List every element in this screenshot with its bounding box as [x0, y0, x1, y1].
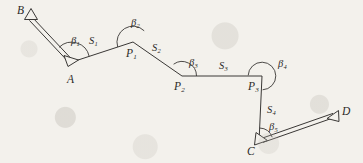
angle-arc-b2	[117, 26, 144, 47]
station-label-D: D	[342, 106, 350, 118]
angle-label-b3: β3	[189, 58, 197, 69]
station-marker-A	[64, 56, 79, 67]
angle-label-b2: β2	[131, 18, 139, 29]
station-label-C: C	[247, 146, 255, 158]
station-marker-C	[255, 133, 268, 146]
traverse-survey-diagram: B A P1 P2 P3 C D S1 S2 S3 S4 β1 β2 β3 β4…	[0, 0, 363, 163]
segment-label-S3: S3	[219, 61, 228, 72]
segment-label-S1: S1	[89, 36, 98, 47]
station-label-A: A	[67, 74, 74, 86]
station-label-P1: P1	[126, 48, 137, 60]
station-marker-B	[25, 9, 38, 20]
station-label-B: B	[17, 5, 24, 17]
segment-line-S4	[259, 76, 262, 142]
station-label-P2: P2	[174, 81, 185, 93]
angle-label-b1: β1	[71, 36, 79, 47]
segment-label-S2: S2	[152, 43, 161, 54]
segment-label-S4: S4	[267, 105, 276, 116]
angle-label-b5: β5	[269, 122, 277, 133]
station-label-P3: P3	[248, 81, 259, 93]
angle-label-b4: β4	[278, 59, 286, 70]
